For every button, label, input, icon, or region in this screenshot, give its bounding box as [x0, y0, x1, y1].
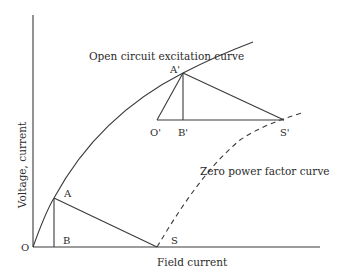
point-A-label: A [63, 188, 72, 199]
y-axis-label: Voltage, current [16, 121, 28, 209]
occ-label: Open circuit excitation curve [89, 50, 244, 62]
point-O-label: O [21, 242, 29, 253]
x-axis-label: Field current [157, 256, 228, 268]
point-S-label: S [171, 235, 178, 246]
point-Oprime-label: O' [150, 127, 161, 138]
point-Aprime-label: A' [169, 64, 180, 75]
potier-diagram: Open circuit excitation curve Zero power… [0, 0, 347, 276]
zpf-label: Zero power factor curve [200, 165, 330, 177]
point-Sprime-label: S' [280, 127, 290, 138]
line-AprimeSprime [183, 73, 284, 120]
open-circuit-curve [33, 42, 253, 247]
point-B-label: B [63, 235, 70, 246]
point-Bprime-label: B' [178, 127, 188, 138]
